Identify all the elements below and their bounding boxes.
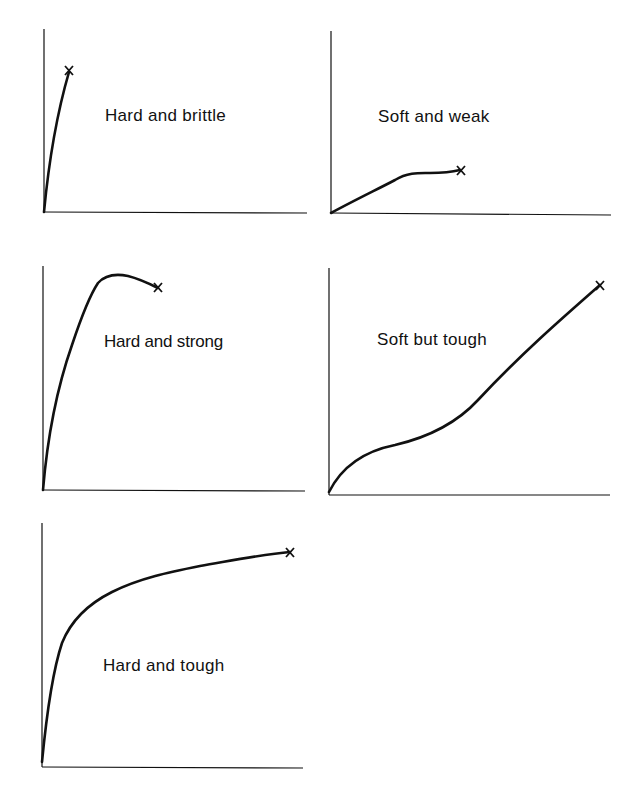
label-hard-strong: Hard and strong <box>104 332 223 352</box>
curve-soft-tough <box>329 285 600 492</box>
fracture-x-icon <box>596 281 604 290</box>
curve-soft-weak <box>331 170 460 213</box>
curve-hard-strong <box>43 275 158 490</box>
panel-hard-strong <box>43 266 305 491</box>
stress-strain-figure <box>0 0 640 795</box>
x-axis <box>42 767 303 768</box>
curve-hard-brittle <box>44 72 69 212</box>
label-hard-brittle: Hard and brittle <box>105 106 226 126</box>
label-hard-tough: Hard and tough <box>103 656 224 676</box>
panel-hard-tough <box>42 523 303 768</box>
x-axis <box>43 490 305 491</box>
x-axis <box>331 213 611 215</box>
label-soft-tough: Soft but tough <box>377 330 487 350</box>
x-axis <box>44 212 307 213</box>
label-soft-weak: Soft and weak <box>378 107 490 127</box>
panel-soft-tough <box>329 268 610 495</box>
